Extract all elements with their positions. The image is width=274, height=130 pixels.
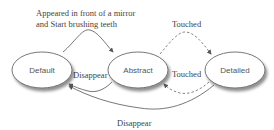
edge-detailed-to-default bbox=[69, 85, 214, 109]
edge-label-appeared-line1: Appeared in front of a mirror bbox=[36, 8, 136, 18]
edge-label-disappear-outer: Disappear bbox=[117, 118, 152, 128]
edge-label-touched-top: Touched bbox=[172, 19, 202, 29]
edge-default-to-abstract bbox=[63, 30, 113, 52]
edge-label-appeared-line2: and Start brushing teeth bbox=[36, 19, 118, 29]
node-default: Default bbox=[12, 52, 72, 88]
edge-abstract-to-detailed bbox=[160, 32, 211, 54]
edge-label-touched-bottom: Touched bbox=[172, 69, 202, 79]
edge-label-disappear-inner: Disappear bbox=[73, 70, 108, 80]
node-abstract-label: Abstract bbox=[123, 66, 153, 75]
node-abstract: Abstract bbox=[108, 52, 168, 88]
node-detailed: Detailed bbox=[205, 52, 265, 88]
edge-abstract-to-default bbox=[69, 82, 112, 92]
edge-detailed-to-abstract bbox=[164, 82, 209, 93]
state-diagram: Appeared in front of a mirror and Start … bbox=[0, 0, 274, 130]
node-detailed-label: Detailed bbox=[220, 66, 249, 75]
node-default-label: Default bbox=[29, 66, 55, 75]
